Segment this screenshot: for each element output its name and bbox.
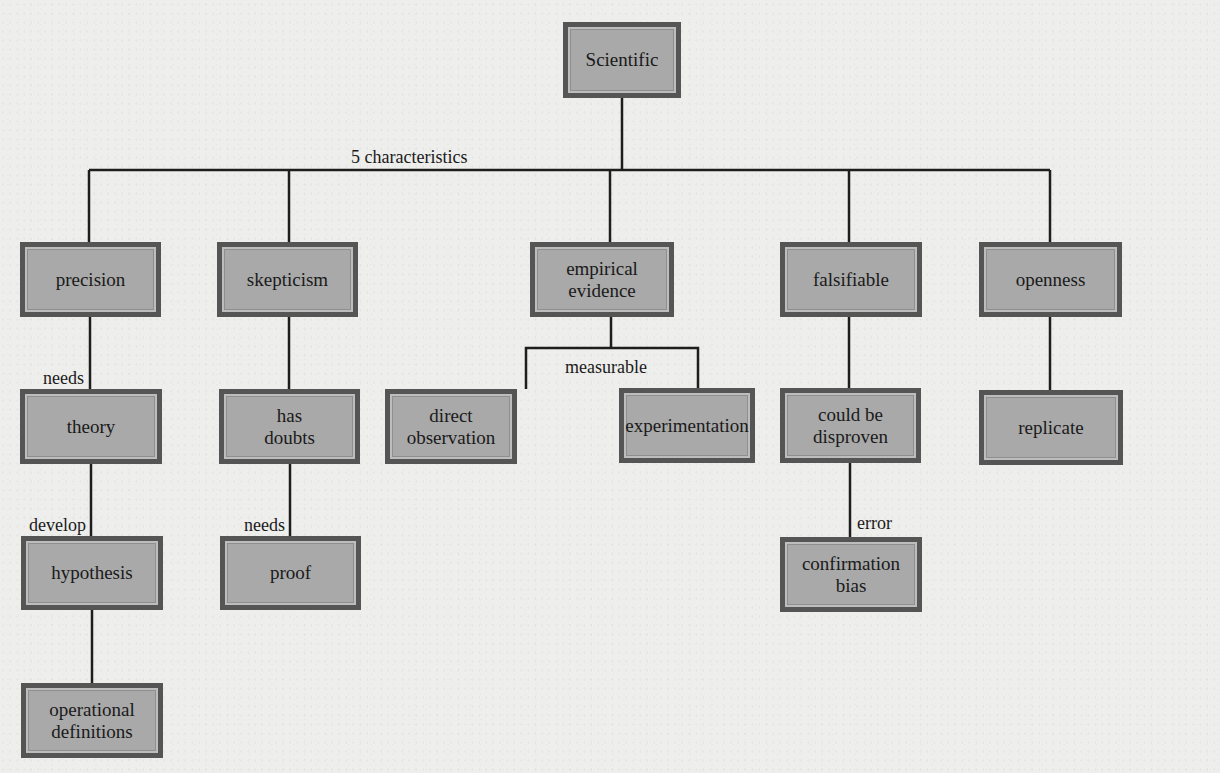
node-falsifiable: falsifiable <box>780 242 922 317</box>
node-operational-definitions: operational definitions <box>21 683 163 758</box>
edge-label-needs-proof: needs <box>244 515 285 535</box>
node-label: theory <box>67 416 116 438</box>
node-confirmation-bias: confirmation bias <box>780 537 922 612</box>
node-empirical-evidence: empirical evidence <box>530 242 674 317</box>
node-label: openness <box>1016 269 1086 291</box>
edge-label-error: error <box>857 513 892 533</box>
node-label: replicate <box>1018 417 1083 439</box>
connector-lines <box>0 0 1220 773</box>
node-label: Scientific <box>586 49 659 71</box>
edge-label-needs-theory: needs <box>43 368 84 388</box>
node-could-be-disproven: could be disproven <box>780 388 921 463</box>
edge-label-5-characteristics: 5 characteristics <box>351 147 467 167</box>
node-label: operational definitions <box>49 699 134 743</box>
node-label: could be disproven <box>813 404 888 448</box>
node-scientific: Scientific <box>563 22 681 98</box>
node-label: experimentation <box>625 415 748 437</box>
edge-label-measurable: measurable <box>565 357 647 377</box>
node-label: proof <box>270 562 311 584</box>
node-direct-observation: direct observation <box>385 389 517 464</box>
node-label: skepticism <box>247 269 328 291</box>
node-replicate: replicate <box>979 390 1123 465</box>
node-openness: openness <box>979 242 1122 317</box>
node-label: direct observation <box>407 405 496 449</box>
node-theory: theory <box>20 389 162 464</box>
node-proof: proof <box>220 536 361 610</box>
node-experimentation: experimentation <box>619 388 755 463</box>
node-precision: precision <box>20 242 161 317</box>
node-label: hypothesis <box>51 562 132 584</box>
node-has-doubts: has doubts <box>219 389 360 464</box>
node-label: precision <box>56 269 126 291</box>
node-label: falsifiable <box>813 269 889 291</box>
node-label: empirical evidence <box>566 258 638 302</box>
edge-label-develop: develop <box>29 515 86 535</box>
node-skepticism: skepticism <box>217 242 358 317</box>
node-label: confirmation bias <box>802 553 900 597</box>
node-label: has doubts <box>264 405 315 449</box>
node-hypothesis: hypothesis <box>21 536 163 610</box>
